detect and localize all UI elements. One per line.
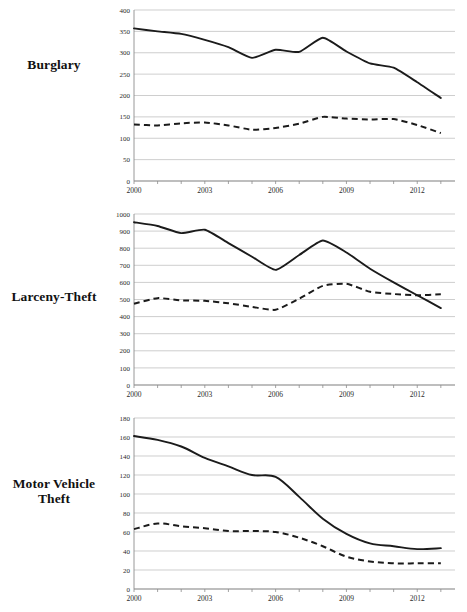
data-series-solid <box>134 28 441 98</box>
panel-label-larceny-theft: Larceny-Theft <box>0 289 108 304</box>
y-axis-tick-label: 50 <box>123 156 131 164</box>
y-axis-tick-label: 150 <box>120 113 131 121</box>
chart-panel-larceny-theft: Larceny-Theft 01002003004005006007008009… <box>0 204 467 408</box>
x-axis-tick-label: 2003 <box>197 186 212 195</box>
x-axis-tick-label: 2009 <box>339 594 354 603</box>
y-axis-tick-label: 0 <box>127 178 131 186</box>
y-axis-tick-label: 0 <box>127 382 131 390</box>
panel-label-line: Theft <box>0 491 108 506</box>
line-chart-larceny-theft: 0100200300400500600700800900100020002003… <box>108 204 467 408</box>
chart-panel-burglary: Burglary 0501001502002503003504002000200… <box>0 0 467 204</box>
y-axis-tick-label: 300 <box>120 330 131 338</box>
y-axis-tick-label: 600 <box>120 279 131 287</box>
plot-area-burglary: 0501001502002503003504002000200320062009… <box>108 0 467 204</box>
y-axis-tick-label: 1000 <box>116 211 131 219</box>
x-axis-tick-label: 2012 <box>410 390 425 399</box>
plot-area-larceny-theft: 0100200300400500600700800900100020002003… <box>108 204 467 408</box>
y-axis-tick-label: 180 <box>120 415 131 423</box>
x-axis-tick-label: 2006 <box>268 186 283 195</box>
plot-area-motor-vehicle-theft: 0204060801001201401601802000200320062009… <box>108 408 467 612</box>
panel-label-motor-vehicle-theft: Motor Vehicle Theft <box>0 476 108 506</box>
y-axis-tick-label: 140 <box>120 453 131 461</box>
y-axis-tick-label: 200 <box>120 347 131 355</box>
y-axis-tick-label: 100 <box>120 365 131 373</box>
x-axis-tick-label: 2006 <box>268 390 283 399</box>
panel-label-burglary: Burglary <box>0 57 108 72</box>
data-series-dashed <box>134 284 441 310</box>
panel-label-line: Larceny-Theft <box>0 289 108 304</box>
x-axis-tick-label: 2000 <box>127 594 142 603</box>
x-axis-tick-label: 2009 <box>339 390 354 399</box>
x-axis-tick-label: 2012 <box>410 186 425 195</box>
line-chart-motor-vehicle-theft: 0204060801001201401601802000200320062009… <box>108 408 467 612</box>
data-series-dashed <box>134 117 441 133</box>
y-axis-tick-label: 400 <box>120 313 131 321</box>
panel-label-line: Burglary <box>0 57 108 72</box>
y-axis-tick-label: 400 <box>120 7 131 15</box>
y-axis-tick-label: 40 <box>123 548 131 556</box>
y-axis-tick-label: 100 <box>120 491 131 499</box>
x-axis-tick-label: 2009 <box>339 186 354 195</box>
x-axis-tick-label: 2003 <box>197 390 212 399</box>
y-axis-tick-label: 900 <box>120 228 131 236</box>
x-axis-tick-label: 2000 <box>127 186 142 195</box>
y-axis-tick-label: 80 <box>123 510 131 518</box>
x-axis-tick-label: 2012 <box>410 594 425 603</box>
line-chart-burglary: 0501001502002503003504002000200320062009… <box>108 0 467 204</box>
y-axis-tick-label: 250 <box>120 71 131 79</box>
figure-root: Burglary 0501001502002503003504002000200… <box>0 0 467 612</box>
y-axis-tick-label: 700 <box>120 262 131 270</box>
y-axis-tick-label: 0 <box>127 586 131 594</box>
data-series-dashed <box>134 523 441 563</box>
y-axis-tick-label: 300 <box>120 49 131 57</box>
y-axis-tick-label: 200 <box>120 92 131 100</box>
y-axis-tick-label: 100 <box>120 135 131 143</box>
panel-label-line: Motor Vehicle <box>0 476 108 491</box>
y-axis-tick-label: 120 <box>120 472 131 480</box>
x-axis-tick-label: 2006 <box>268 594 283 603</box>
y-axis-tick-label: 160 <box>120 434 131 442</box>
y-axis-tick-label: 500 <box>120 296 131 304</box>
y-axis-tick-label: 800 <box>120 245 131 253</box>
y-axis-tick-label: 60 <box>123 529 131 537</box>
y-axis-tick-label: 350 <box>120 28 131 36</box>
chart-panel-motor-vehicle-theft: Motor Vehicle Theft 02040608010012014016… <box>0 408 467 612</box>
x-axis-tick-label: 2000 <box>127 390 142 399</box>
x-axis-tick-label: 2003 <box>197 594 212 603</box>
y-axis-tick-label: 20 <box>123 567 131 575</box>
